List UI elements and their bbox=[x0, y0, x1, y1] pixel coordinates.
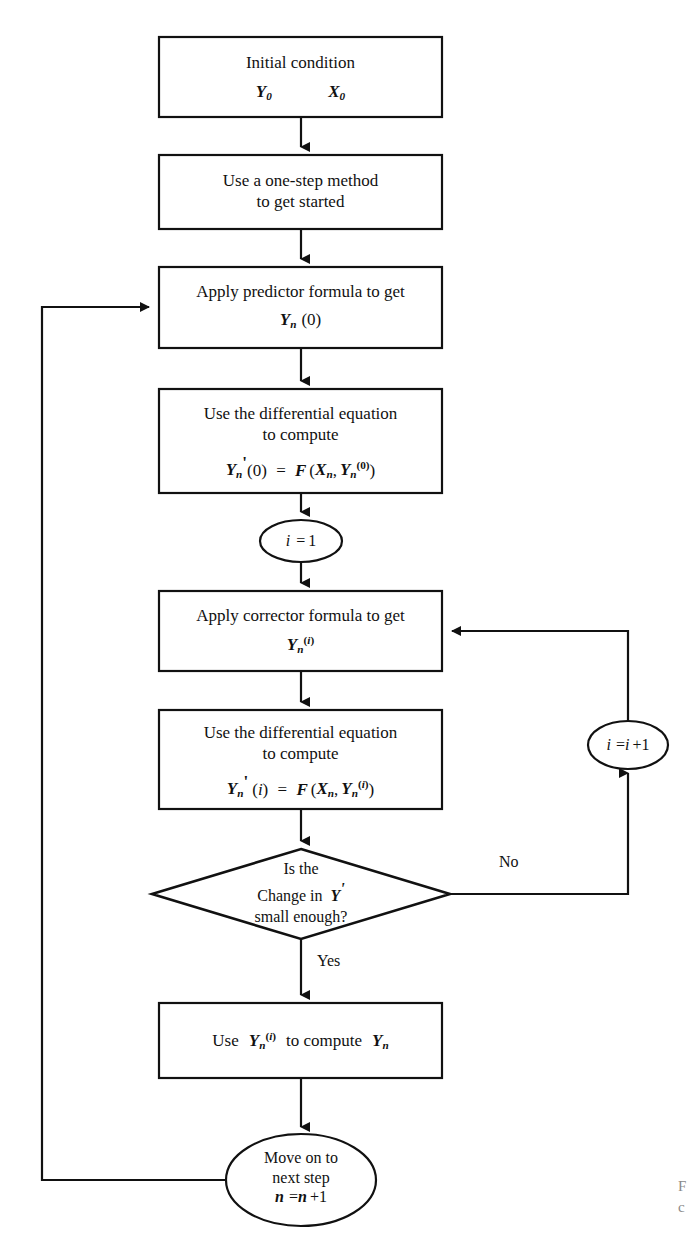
edge-label-yes: Yes bbox=[317, 952, 340, 970]
label-increment-i: i=i+1 bbox=[585, 735, 671, 755]
node-convergence-decision bbox=[152, 849, 450, 939]
node-apply-predictor bbox=[159, 267, 442, 348]
node-differential-equation-predictor bbox=[159, 389, 442, 493]
node-apply-corrector bbox=[159, 591, 442, 671]
label-move-next-step: Move on to next step n=n+1 bbox=[226, 1148, 376, 1207]
cut-off-caption: F c bbox=[678, 1176, 697, 1218]
caption-line1: F bbox=[678, 1176, 697, 1197]
flowchart-page: Initial condition Y0 X0 Use a one-step m… bbox=[0, 0, 697, 1246]
label-i-equals-1: i=1 bbox=[260, 531, 342, 551]
edge-no-branch-right-segment bbox=[450, 773, 628, 894]
move-next-line1: Move on to bbox=[226, 1148, 376, 1168]
move-next-line2: next step bbox=[226, 1168, 376, 1188]
flowchart-canvas bbox=[0, 0, 697, 1246]
node-compute-yn bbox=[159, 1003, 442, 1078]
edge-no-branch-to-corrector bbox=[452, 631, 628, 721]
move-next-line3: n=n+1 bbox=[226, 1187, 376, 1207]
node-initial-condition bbox=[159, 37, 442, 117]
node-one-step-method bbox=[159, 155, 442, 229]
edge-label-no: No bbox=[499, 853, 519, 871]
caption-line2: c bbox=[678, 1197, 697, 1218]
node-differential-equation-corrector bbox=[159, 710, 442, 809]
